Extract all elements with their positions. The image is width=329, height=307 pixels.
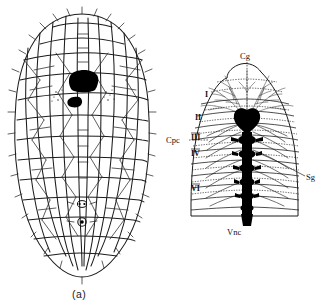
segment-numeral-iv: IV (191, 149, 200, 158)
segment-numeral-iii: III (191, 133, 200, 142)
segment-numeral-i: I (205, 90, 208, 99)
segment-numeral-vi: VI (191, 184, 200, 193)
label-vnc-text: Vnc (227, 227, 241, 237)
cns-drawing: Cg Cpc Sg Vnc I II III IV VI (165, 0, 329, 307)
plexus-drawing (0, 0, 165, 307)
label-cg-text: Cg (240, 51, 251, 61)
panel-a: (a) (0, 0, 165, 307)
plexus-body-outline (15, 14, 150, 277)
label-cpc-text: Cpc (166, 135, 180, 145)
figure-container: (a) (0, 0, 329, 307)
label-ventral-nerve-cord: Vnc (227, 227, 241, 237)
label-circumpharyngeal-connective: Cpc (166, 135, 209, 145)
panel-b: Cg Cpc Sg Vnc I II III IV VI (165, 0, 329, 307)
label-cerebral-ganglion: Cg (240, 51, 251, 61)
plexus-midline-tract (77, 18, 89, 266)
plexus-posterior-ganglia (67, 201, 97, 227)
segment-numeral-ii: II (195, 113, 201, 122)
plexus-mesh-vertical (26, 16, 139, 270)
panel-a-caption: (a) (72, 288, 86, 300)
plexus-cerebral-mass (67, 70, 98, 107)
label-sg-text: Sg (306, 172, 316, 182)
